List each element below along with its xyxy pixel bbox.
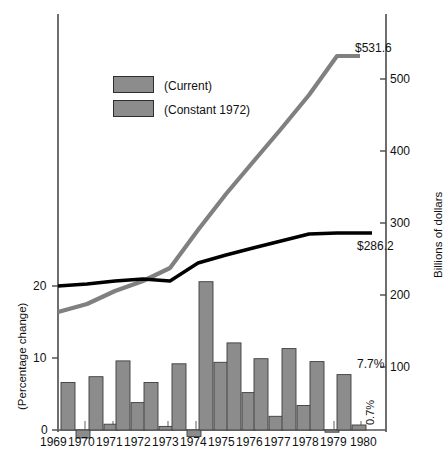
right-axis-title: Billions of dollars — [432, 192, 444, 278]
x-tick-1972: 1972 — [124, 436, 151, 448]
x-tick-1969: 1969 — [40, 436, 67, 448]
bar-group-1976 — [254, 359, 283, 430]
right-tick-500: 500 — [390, 73, 410, 85]
bar-group-1973 — [172, 364, 201, 437]
right-tick-400: 400 — [390, 145, 410, 157]
bar-group-1971 — [116, 361, 145, 430]
x-tick-1974: 1974 — [180, 436, 207, 448]
right-axis-ticks — [380, 79, 386, 367]
bar-constant-1979 — [352, 425, 366, 430]
x-tick-1978: 1978 — [292, 436, 319, 448]
line-constant-dollars — [58, 233, 372, 286]
bar-constant-1974 — [214, 362, 228, 430]
legend-swatch-constant — [113, 100, 154, 117]
bar-group-1975 — [227, 343, 256, 430]
legend-label-current: (Current) — [164, 79, 212, 93]
annotation-current-endpoint: $531.6 — [355, 42, 392, 54]
bar-current-1977 — [282, 349, 296, 430]
bar-group-1978 — [310, 362, 339, 433]
right-tick-300: 300 — [390, 217, 410, 229]
bar-current-1972 — [144, 383, 158, 431]
right-tick-200: 200 — [390, 289, 410, 301]
bar-constant-1976 — [269, 416, 283, 430]
left-axis-title: (Percentage change) — [16, 303, 28, 410]
bar-current-1971 — [116, 361, 130, 430]
x-tick-1980: 1980 — [350, 436, 377, 448]
bar-current-1974 — [199, 282, 213, 430]
bar-current-1970 — [89, 377, 103, 430]
bar-constant-1972 — [159, 426, 173, 430]
bar-group-1977 — [282, 349, 311, 430]
bar-current-1979 — [337, 375, 351, 430]
right-tick-100: 100 — [390, 361, 410, 373]
top-cropped-text — [120, 0, 123, 9]
bar-group-1970 — [89, 377, 118, 430]
bar-current-1976 — [254, 359, 268, 430]
annotation-constant-endpoint: $286.2 — [357, 240, 394, 252]
bar-group-1974 — [199, 282, 228, 430]
bar-current-1978 — [310, 362, 324, 430]
annotation-bar-current-1979: 7.7% — [357, 358, 384, 370]
bar-constant-1971 — [131, 403, 145, 430]
bar-current-1969 — [61, 383, 75, 431]
x-tick-1977: 1977 — [264, 436, 291, 448]
left-tick-10: 10 — [33, 352, 46, 364]
left-axis-ticks — [52, 286, 58, 430]
x-tick-1975: 1975 — [208, 436, 235, 448]
left-tick-20: 20 — [33, 280, 46, 292]
bar-group-1972 — [144, 383, 173, 431]
x-tick-1976: 1976 — [236, 436, 263, 448]
chart-svg — [0, 0, 444, 451]
bar-constant-1977 — [297, 406, 311, 431]
chart-container: (Current) (Constant 1972) 500 400 300 20… — [0, 0, 444, 451]
bar-current-1975 — [227, 343, 241, 430]
annotation-bar-constant-1979: 0.7% — [365, 400, 376, 425]
x-tick-1979: 1979 — [320, 436, 347, 448]
bar-current-1973 — [172, 364, 186, 430]
x-tick-1973: 1973 — [152, 436, 179, 448]
legend-label-constant: (Constant 1972) — [164, 103, 250, 117]
bar-group-1979 — [337, 375, 366, 430]
line-current-dollars — [58, 56, 360, 312]
x-tick-1970: 1970 — [68, 436, 95, 448]
x-tick-1971: 1971 — [96, 436, 123, 448]
legend-swatch-current — [113, 76, 154, 93]
